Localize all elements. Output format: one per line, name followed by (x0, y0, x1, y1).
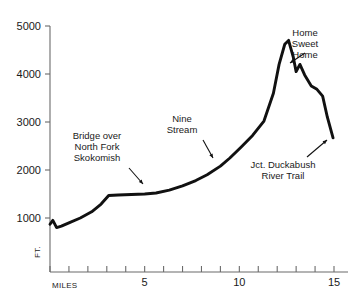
y-tick-label: 1000 (17, 212, 41, 224)
x-axis-unit-label: MILES (52, 281, 78, 290)
elevation-profile-chart: 10002000300040005000 51015 FT. MILES Bri… (0, 0, 355, 305)
annotation-label-nine-stream: Nine Stream (167, 114, 198, 136)
y-tick-label: 2000 (17, 164, 41, 176)
y-tick-label: 5000 (17, 20, 41, 32)
y-tick-label: 3000 (17, 116, 41, 128)
y-axis-tick-labels: 10002000300040005000 (17, 20, 41, 224)
x-tick-label: 5 (142, 276, 148, 288)
y-axis-ticks (45, 26, 50, 218)
y-axis-unit-label: FT. (33, 246, 42, 258)
x-axis-tick-labels: 51015 (142, 276, 341, 288)
x-tick-label: 15 (328, 276, 340, 288)
annotation-label-jct-duckabush: Jct. Duckabush River Trail (251, 160, 316, 182)
annotation-label-bridge: Bridge over North Fork Skokomish (73, 131, 122, 163)
annotation-label-home-sweet-home: Home Sweet Home (292, 28, 318, 60)
x-tick-label: 10 (233, 276, 245, 288)
y-tick-label: 4000 (17, 68, 41, 80)
x-axis-ticks (50, 266, 334, 272)
